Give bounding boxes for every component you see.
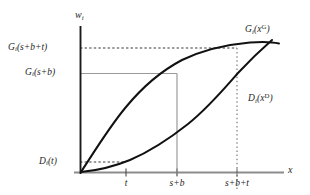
x-tick-label-s-plus-b: s+b bbox=[159, 179, 195, 189]
y-label-g-lower: Gi(s+b) bbox=[25, 68, 55, 78]
y-label-g-lower-arg: (s+b) bbox=[34, 67, 55, 77]
curve-label-d-base: D bbox=[248, 93, 255, 103]
figure-container: wi x Gi(s+b+t) Gi(s+b) Di(t) t s+b s+b+t… bbox=[0, 0, 310, 195]
y-axis-label: wi bbox=[75, 10, 84, 22]
curve-label-d-close: ) bbox=[269, 93, 272, 103]
curve-label-g-var: x bbox=[257, 24, 261, 34]
y-label-d-lower: Di(t) bbox=[39, 157, 57, 167]
curve-label-g-base: G bbox=[245, 24, 252, 34]
y-label-g-lower-base: G bbox=[25, 67, 32, 77]
y-axis-label-subscript: i bbox=[82, 14, 84, 22]
y-label-g-upper-arg: (s+b+t) bbox=[17, 42, 47, 52]
curve-label-d-var: x bbox=[260, 93, 264, 103]
y-label-g-upper: Gi(s+b+t) bbox=[8, 43, 47, 53]
y-label-d-lower-base: D bbox=[39, 156, 46, 166]
y-axis-label-base: w bbox=[75, 9, 82, 20]
y-label-d-lower-arg: (t) bbox=[48, 156, 57, 166]
x-tick-label-t: t bbox=[116, 179, 136, 189]
curve-label-d: Di(xD) bbox=[248, 93, 273, 104]
curve-label-g-close: ) bbox=[266, 24, 269, 34]
y-label-g-upper-base: G bbox=[8, 42, 15, 52]
x-tick-label-s-plus-b-plus-t: s+b+t bbox=[213, 179, 261, 189]
x-axis-label: x bbox=[288, 165, 292, 175]
curve-label-g: Gi(xG) bbox=[245, 24, 270, 35]
